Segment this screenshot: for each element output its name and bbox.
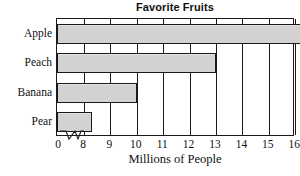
x-axis-tick-15: 15 bbox=[257, 138, 279, 151]
y-axis-label-apple: Apple bbox=[0, 27, 52, 39]
bar-peach bbox=[57, 53, 216, 73]
bar-banana bbox=[57, 83, 137, 103]
y-axis-label-peach: Peach bbox=[0, 56, 52, 68]
x-axis-title: Millions of People bbox=[56, 152, 294, 167]
plot-area bbox=[56, 18, 294, 136]
y-axis-label-pear: Pear bbox=[0, 115, 52, 127]
x-axis-tick-9: 9 bbox=[98, 138, 120, 151]
chart-title: Favorite Fruits bbox=[56, 1, 294, 14]
x-axis-tick-16: 16 bbox=[283, 138, 300, 151]
x-axis-tick-14: 14 bbox=[230, 138, 252, 151]
x-axis-tick-10: 10 bbox=[125, 138, 147, 151]
chart-screenshot: Favorite Fruits ApplePeachBananaPear 089… bbox=[0, 0, 300, 176]
y-axis-label-banana: Banana bbox=[0, 86, 52, 98]
x-axis-tick-12: 12 bbox=[178, 138, 200, 151]
bar-apple bbox=[57, 24, 300, 44]
x-axis-tick-11: 11 bbox=[151, 138, 173, 151]
axis-break-icon bbox=[60, 130, 84, 142]
x-axis-tick-13: 13 bbox=[204, 138, 226, 151]
